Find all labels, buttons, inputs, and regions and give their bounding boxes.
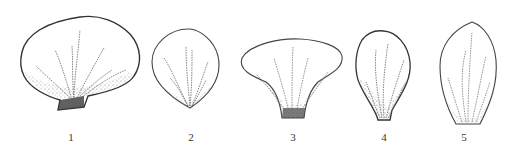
petal-label-4: 4 — [374, 131, 394, 143]
petal-label-2: 2 — [181, 131, 201, 143]
petal-3 — [241, 39, 342, 118]
petal-label-1: 1 — [61, 131, 81, 143]
petal-2 — [152, 29, 219, 108]
petal-1 — [21, 16, 140, 110]
petal-4 — [356, 31, 410, 120]
petal-figure: 1 2 3 4 5 — [0, 0, 519, 156]
petal-label-3: 3 — [283, 131, 303, 143]
petal-label-5: 5 — [454, 131, 474, 143]
petal-5 — [440, 22, 496, 124]
